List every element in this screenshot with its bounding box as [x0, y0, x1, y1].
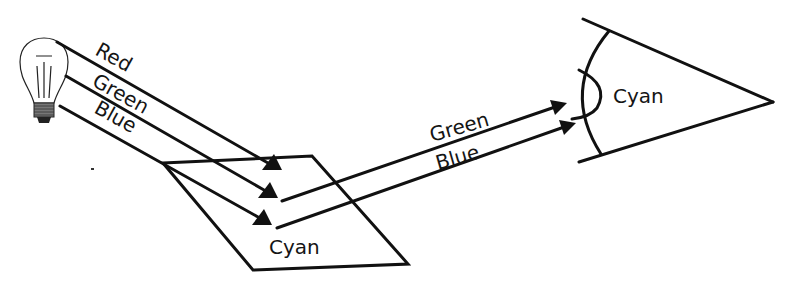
- perceived-color-label: Cyan: [613, 84, 664, 108]
- reflected-ray-blue: [277, 120, 576, 228]
- eye-icon: [572, 19, 773, 162]
- arrowhead-icon: [550, 100, 567, 115]
- light-bulb-icon: [20, 38, 68, 123]
- color-reflection-diagram: Red Green Blue Cyan Green Blue Cyan: [0, 0, 794, 286]
- surface-label: Cyan: [269, 235, 320, 259]
- incident-ray-red: [57, 42, 282, 170]
- arrowhead-icon: [559, 120, 576, 135]
- speck: [91, 168, 94, 170]
- reflected-ray-green: [282, 100, 567, 201]
